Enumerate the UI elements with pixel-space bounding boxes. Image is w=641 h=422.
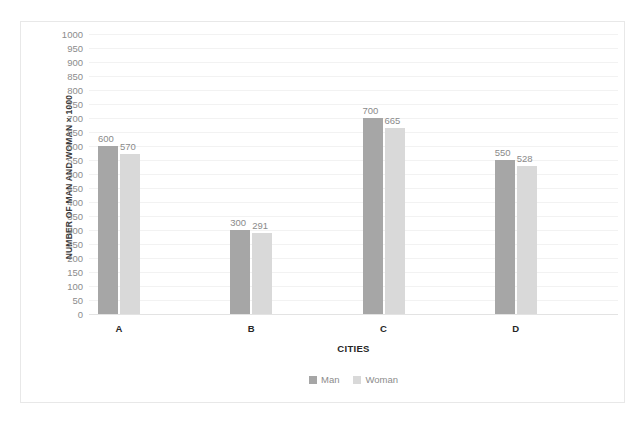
x-axis-category-label: D bbox=[486, 323, 546, 334]
legend-item-woman[interactable]: Woman bbox=[353, 374, 398, 385]
bar-value-label: 570 bbox=[120, 141, 136, 152]
x-axis-category-label: A bbox=[89, 323, 149, 334]
bar-woman-d[interactable]: 528 bbox=[517, 166, 537, 314]
bar-man-d[interactable]: 550 bbox=[495, 160, 515, 314]
y-axis-tick-label: 200 bbox=[67, 253, 83, 264]
bar-value-label: 528 bbox=[517, 153, 533, 164]
y-axis-tick-label: 650 bbox=[67, 127, 83, 138]
chart-container: NUMBER OF MAN AND WOMAN × 1000 050100150… bbox=[20, 21, 625, 403]
y-axis-tick-label: 500 bbox=[67, 169, 83, 180]
y-axis-tick-label: 50 bbox=[72, 295, 83, 306]
x-axis-category-label: B bbox=[221, 323, 281, 334]
bar-value-label: 600 bbox=[98, 133, 114, 144]
bar-group: 600570A bbox=[89, 34, 221, 314]
y-axis-tick-label: 950 bbox=[67, 43, 83, 54]
axis-baseline bbox=[89, 314, 618, 315]
chart-legend: ManWoman bbox=[89, 374, 618, 385]
y-axis-tick-label: 400 bbox=[67, 197, 83, 208]
bar-woman-b[interactable]: 291 bbox=[252, 233, 272, 314]
bar-group: 550528D bbox=[486, 34, 618, 314]
bar-group: 300291B bbox=[221, 34, 353, 314]
y-axis-tick-label: 550 bbox=[67, 155, 83, 166]
y-axis-tick-label: 1000 bbox=[62, 29, 83, 40]
legend-swatch-icon bbox=[353, 376, 361, 384]
y-axis-tick-label: 800 bbox=[67, 85, 83, 96]
bar-woman-c[interactable]: 665 bbox=[385, 128, 405, 314]
bar-value-label: 300 bbox=[230, 217, 246, 228]
y-axis-tick-label: 100 bbox=[67, 281, 83, 292]
y-axis-tick-label: 700 bbox=[67, 113, 83, 124]
plot-area: 0501001502002503003504004505005506006507… bbox=[89, 34, 618, 314]
y-axis-tick-label: 300 bbox=[67, 225, 83, 236]
y-axis-tick-label: 850 bbox=[67, 71, 83, 82]
bar-man-c[interactable]: 700 bbox=[363, 118, 383, 314]
bar-value-label: 550 bbox=[495, 147, 511, 158]
legend-label: Woman bbox=[365, 374, 398, 385]
bar-group: 700665C bbox=[354, 34, 486, 314]
bar-man-a[interactable]: 600 bbox=[98, 146, 118, 314]
y-axis-tick-label: 900 bbox=[67, 57, 83, 68]
bar-man-b[interactable]: 300 bbox=[230, 230, 250, 314]
y-axis-tick-label: 150 bbox=[67, 267, 83, 278]
bar-value-label: 291 bbox=[252, 220, 268, 231]
legend-label: Man bbox=[321, 374, 339, 385]
y-axis-tick-label: 0 bbox=[78, 309, 83, 320]
y-axis-tick-label: 600 bbox=[67, 141, 83, 152]
x-axis-title: CITIES bbox=[89, 343, 618, 354]
legend-item-man[interactable]: Man bbox=[309, 374, 339, 385]
legend-swatch-icon bbox=[309, 376, 317, 384]
x-axis-category-label: C bbox=[354, 323, 414, 334]
y-axis-tick-label: 250 bbox=[67, 239, 83, 250]
bar-value-label: 665 bbox=[385, 115, 401, 126]
bar-value-label: 700 bbox=[363, 105, 379, 116]
y-axis-tick-label: 750 bbox=[67, 99, 83, 110]
bar-woman-a[interactable]: 570 bbox=[120, 154, 140, 314]
y-axis-tick-label: 350 bbox=[67, 211, 83, 222]
y-axis-tick-label: 450 bbox=[67, 183, 83, 194]
